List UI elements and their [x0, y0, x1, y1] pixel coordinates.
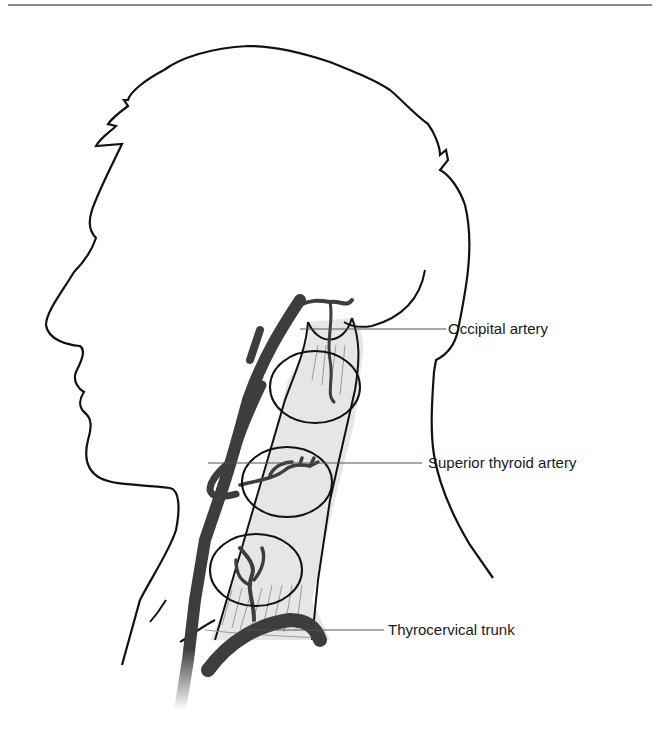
label-superior-thyroid-artery: Superior thyroid artery	[428, 454, 576, 472]
label-occipital-artery: Occipital artery	[448, 320, 548, 338]
jaw-line	[344, 270, 425, 327]
neck-front-inner	[150, 600, 166, 622]
label-thyrocervical-trunk: Thyrocervical trunk	[388, 621, 515, 639]
anatomy-figure	[0, 0, 660, 749]
face-profile	[46, 70, 178, 665]
